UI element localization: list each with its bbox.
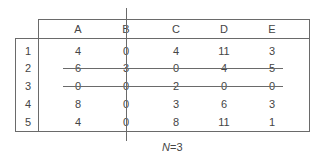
column-header-a: A — [63, 22, 93, 36]
row-2-strikethrough — [63, 68, 283, 69]
column-header-e: E — [257, 22, 287, 36]
row-label-2: 2 — [18, 61, 38, 75]
caption-variable: N — [162, 141, 170, 153]
header-left-border — [38, 19, 39, 132]
caption-value: =3 — [170, 141, 183, 153]
column-b-strikethrough — [126, 8, 127, 141]
table-right-border — [309, 19, 310, 132]
row-label-left-border — [15, 38, 16, 132]
cell-5-c: 8 — [161, 115, 191, 129]
cell-4-e: 3 — [257, 97, 287, 111]
row-label-5: 5 — [18, 115, 38, 129]
cell-1-a: 4 — [63, 44, 93, 58]
row-label-1: 1 — [18, 44, 38, 58]
cell-1-d: 11 — [209, 44, 239, 58]
cell-4-d: 6 — [209, 97, 239, 111]
cell-5-a: 4 — [63, 115, 93, 129]
table-bottom-border — [15, 131, 310, 132]
caption: N=3 — [162, 141, 183, 153]
cell-1-c: 4 — [161, 44, 191, 58]
column-header-d: D — [209, 22, 239, 36]
cell-5-d: 11 — [209, 115, 239, 129]
header-bottom-border — [15, 38, 310, 39]
header-top-border — [38, 19, 310, 20]
column-header-c: C — [161, 22, 191, 36]
row-label-3: 3 — [18, 79, 38, 93]
cell-4-a: 8 — [63, 97, 93, 111]
row-3-strikethrough — [63, 86, 283, 87]
cell-4-c: 3 — [161, 97, 191, 111]
cell-1-e: 3 — [257, 44, 287, 58]
row-label-4: 4 — [18, 97, 38, 111]
cell-5-e: 1 — [257, 115, 287, 129]
